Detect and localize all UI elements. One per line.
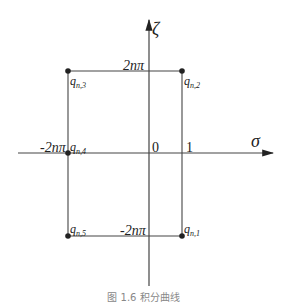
label-q-n5: qn,5 bbox=[70, 223, 86, 238]
label-q-n3: qn,3 bbox=[70, 75, 86, 90]
point-q-n2 bbox=[179, 68, 185, 74]
label-q-n1: qn,1 bbox=[184, 223, 200, 238]
label-2npi-bottom: -2nπ bbox=[120, 224, 146, 238]
label-origin: 0 bbox=[152, 141, 159, 155]
sigma-axis-label: σ bbox=[251, 132, 260, 150]
label-one: 1 bbox=[186, 141, 193, 155]
zeta-axis-label: ζ bbox=[152, 20, 159, 38]
label-q-n4: qn,4 bbox=[70, 141, 86, 156]
point-q-n3 bbox=[65, 68, 71, 74]
figure-caption: 图 1.6 积分曲线 bbox=[0, 289, 287, 303]
label-2npi-top: 2nπ bbox=[123, 59, 144, 73]
label-q-n2: qn,2 bbox=[184, 75, 200, 90]
label-2npi-left: -2nπ bbox=[40, 141, 66, 155]
